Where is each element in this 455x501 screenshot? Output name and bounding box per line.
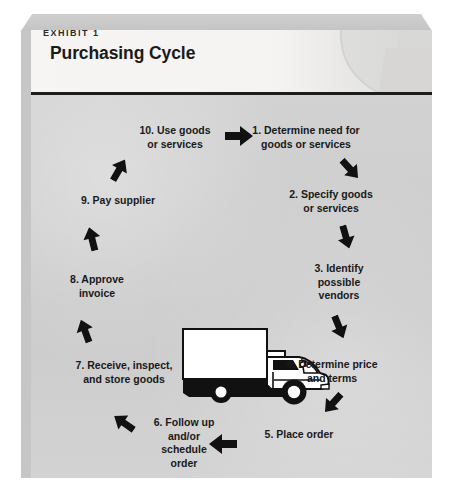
arrow-up-right-icon-10 bbox=[104, 155, 133, 186]
panel-bevel-left-edge bbox=[21, 30, 31, 478]
arrow-left-icon-6 bbox=[209, 433, 237, 455]
arrow-right-icon-1 bbox=[225, 125, 253, 147]
step-label-9: 9. Pay supplier bbox=[66, 194, 170, 208]
step-label-4: 4. Determine price and terms bbox=[271, 358, 393, 385]
arrow-up-icon-8 bbox=[71, 316, 98, 345]
step-label-10: 10. Use goods or services bbox=[125, 124, 225, 151]
exhibit-panel: EXHIBIT 1 Purchasing Cycle 10. Use goods… bbox=[21, 14, 432, 478]
step-label-7: 7. Receive, inspect, and store goods bbox=[65, 359, 183, 386]
arrow-down-icon-3 bbox=[333, 223, 359, 252]
step-label-3: 3. Identify possible vendors bbox=[296, 262, 382, 303]
step-label-8: 8. Approve invoice bbox=[55, 273, 139, 300]
exhibit-kicker: EXHIBIT 1 bbox=[43, 28, 100, 38]
arrow-up-left-icon-7 bbox=[108, 408, 139, 438]
step-label-2: 2. Specify goods or services bbox=[276, 188, 386, 215]
diagram-canvas: 10. Use goods or services 1. Determine n… bbox=[31, 95, 432, 478]
page-title: Purchasing Cycle bbox=[50, 43, 195, 64]
step-label-1: 1. Determine need for goods or services bbox=[244, 124, 368, 151]
arrow-up-icon-9 bbox=[79, 225, 104, 253]
arrow-down-right-icon-2 bbox=[335, 153, 366, 184]
step-label-5: 5. Place order bbox=[247, 428, 351, 442]
